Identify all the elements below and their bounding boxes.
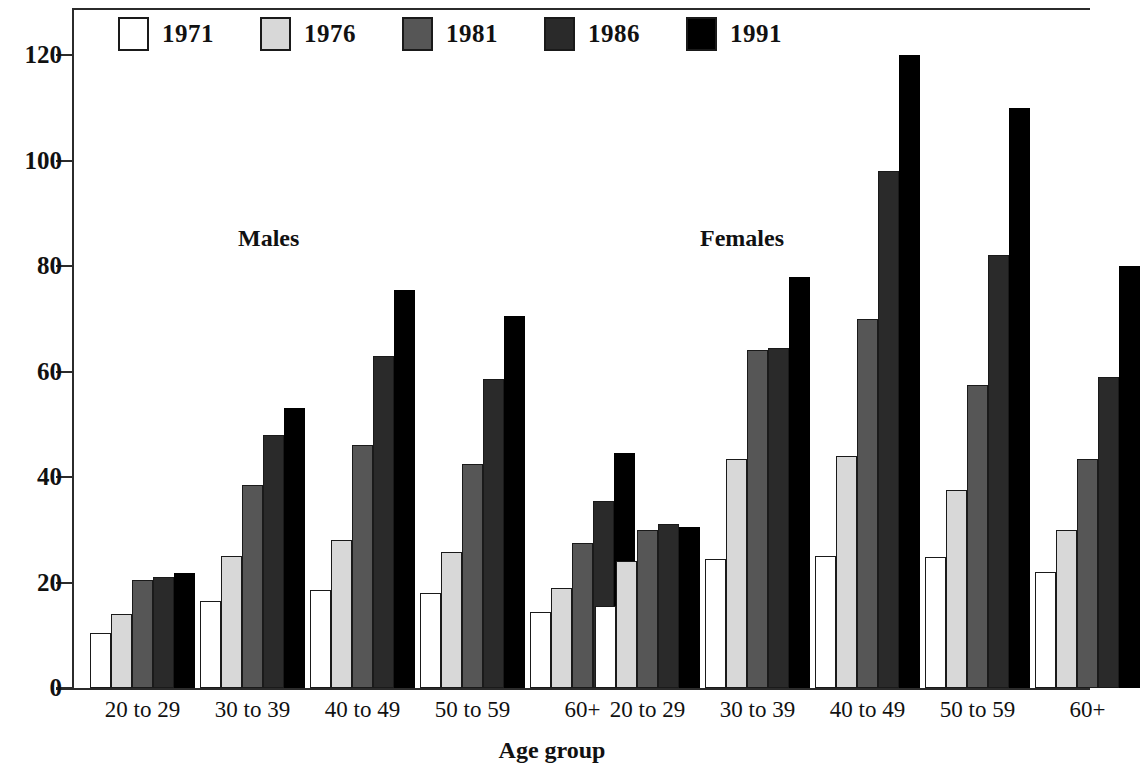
bar[interactable] — [1098, 377, 1119, 688]
bar[interactable] — [815, 556, 836, 688]
bar[interactable] — [310, 590, 331, 688]
bar[interactable] — [200, 601, 221, 688]
bar[interactable] — [394, 290, 415, 688]
bar[interactable] — [747, 350, 768, 688]
bar[interactable] — [616, 561, 637, 688]
bar[interactable] — [595, 606, 616, 688]
bar-group — [925, 108, 1030, 688]
bar[interactable] — [705, 559, 726, 688]
bar[interactable] — [946, 490, 967, 688]
bar[interactable] — [1077, 459, 1098, 688]
bar-group — [200, 408, 305, 688]
bar-group — [310, 290, 415, 688]
bar[interactable] — [768, 348, 789, 688]
bar[interactable] — [111, 614, 132, 688]
bar[interactable] — [132, 580, 153, 688]
bar[interactable] — [899, 55, 920, 688]
bar[interactable] — [420, 593, 441, 688]
bar[interactable] — [637, 530, 658, 688]
bar[interactable] — [551, 588, 572, 688]
bar[interactable] — [679, 527, 700, 688]
bar[interactable] — [878, 171, 899, 688]
bar[interactable] — [530, 612, 551, 688]
bar[interactable] — [331, 540, 352, 688]
bar[interactable] — [988, 255, 1009, 688]
x-axis-label: 60+ — [1017, 697, 1144, 723]
bar[interactable] — [925, 557, 946, 688]
bar[interactable] — [504, 316, 525, 688]
bar-group — [595, 524, 700, 688]
x-axis-title: Age group — [0, 737, 1104, 764]
bar[interactable] — [572, 543, 593, 688]
bar[interactable] — [1009, 108, 1030, 688]
bar[interactable] — [373, 356, 394, 688]
bar[interactable] — [789, 277, 810, 688]
bar[interactable] — [221, 556, 242, 688]
bar-group — [705, 277, 810, 688]
bar[interactable] — [441, 552, 462, 688]
bar[interactable] — [263, 435, 284, 688]
bar[interactable] — [90, 633, 111, 688]
bar[interactable] — [242, 485, 263, 688]
bar-group — [1035, 266, 1140, 688]
bar[interactable] — [1056, 530, 1077, 688]
bar[interactable] — [857, 319, 878, 688]
bar[interactable] — [1035, 572, 1056, 688]
bar[interactable] — [174, 573, 195, 688]
bar-group — [815, 55, 920, 688]
bar-group — [90, 573, 195, 688]
bar[interactable] — [1119, 266, 1140, 688]
bar[interactable] — [153, 577, 174, 688]
bar[interactable] — [462, 464, 483, 688]
bar[interactable] — [726, 459, 747, 688]
bar[interactable] — [352, 445, 373, 688]
bar[interactable] — [483, 379, 504, 688]
bar[interactable] — [658, 524, 679, 688]
bar[interactable] — [836, 456, 857, 688]
bar-group — [420, 316, 525, 688]
bar[interactable] — [967, 385, 988, 688]
bar[interactable] — [284, 408, 305, 688]
